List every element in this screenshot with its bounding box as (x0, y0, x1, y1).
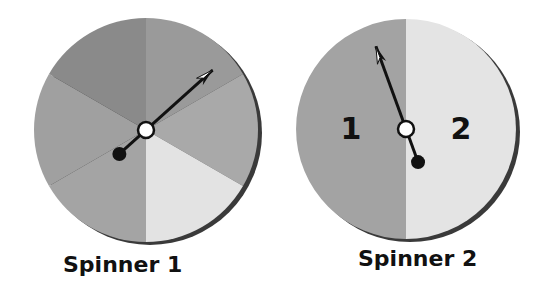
sector-number-label: 1 (341, 111, 362, 146)
spinner-1 (34, 18, 262, 245)
spinner-2: 21 (296, 19, 520, 242)
spinner-pivot-icon (398, 121, 414, 137)
sector-number-label: 2 (451, 111, 472, 146)
arrow-tail-knob-icon (411, 155, 425, 169)
spinner-1-label: Spinner 1 (63, 252, 182, 277)
spinner-2-label: Spinner 2 (358, 246, 477, 271)
arrow-tail-knob-icon (112, 147, 126, 161)
spinner-pivot-icon (138, 122, 154, 138)
